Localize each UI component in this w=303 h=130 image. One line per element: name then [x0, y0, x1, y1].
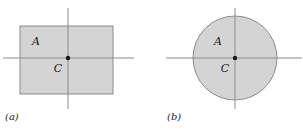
panel-a-diagram: A C (a)	[0, 0, 151, 130]
panel-a: A C (a)	[0, 0, 151, 130]
figure-root: A C (a) A C (b)	[0, 0, 303, 130]
center-point-dot	[233, 56, 237, 60]
region-label-a: A	[213, 35, 222, 48]
panel-caption-a: (a)	[5, 111, 19, 122]
panel-b: A C (b)	[151, 0, 302, 130]
center-label-c: C	[54, 62, 63, 75]
panel-caption-b: (b)	[167, 111, 181, 122]
panel-b-diagram: A C (b)	[151, 0, 302, 130]
region-label-a: A	[31, 35, 40, 48]
center-label-c: C	[221, 62, 230, 75]
center-point-dot	[66, 56, 70, 60]
